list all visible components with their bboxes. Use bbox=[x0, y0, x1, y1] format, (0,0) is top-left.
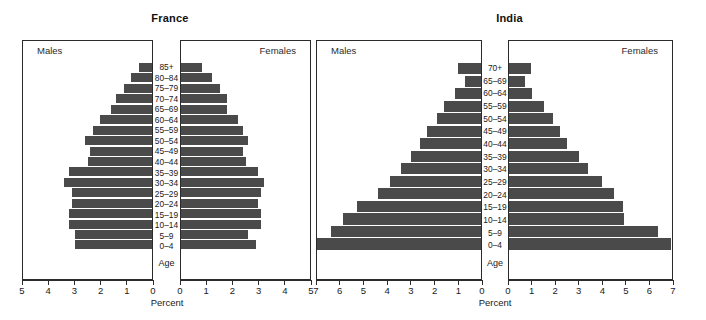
france-age-caption: Age bbox=[153, 258, 180, 268]
axis-tick-label: 2 bbox=[230, 285, 235, 296]
age-group-label: 60–64 bbox=[482, 87, 508, 100]
bar-row bbox=[317, 201, 481, 214]
france-age-labels: 85+80–8475–7970–7465–6960–6455–5950–5445… bbox=[153, 40, 180, 280]
bar-65_69 bbox=[509, 76, 525, 87]
axis-spine bbox=[180, 280, 311, 281]
axis-tick bbox=[232, 280, 233, 285]
axis-tick-label: 4 bbox=[384, 285, 389, 296]
axis-tick bbox=[206, 280, 207, 285]
age-group-label: 45–49 bbox=[153, 146, 180, 157]
axis-tick bbox=[649, 280, 650, 285]
bar-row bbox=[23, 147, 152, 157]
bar-row bbox=[509, 113, 672, 126]
bar-row bbox=[317, 138, 481, 151]
bar-75_79 bbox=[181, 84, 220, 93]
bar-row bbox=[317, 226, 481, 239]
axis-tick-label: 7 bbox=[313, 285, 318, 296]
bar-row bbox=[23, 73, 152, 83]
bar-row bbox=[23, 240, 152, 250]
axis-tick-label: 0 bbox=[177, 285, 182, 296]
age-group-label: 20–24 bbox=[153, 199, 180, 210]
axis-tick bbox=[410, 280, 411, 285]
axis-tick bbox=[126, 280, 127, 285]
bar-45_49 bbox=[427, 126, 481, 137]
france-males-bars bbox=[23, 63, 152, 251]
india-females-panel: Females bbox=[508, 40, 673, 280]
france-females-panel: Females bbox=[180, 40, 311, 280]
bar-row bbox=[509, 201, 672, 214]
bar-row bbox=[509, 76, 672, 89]
india-males-axis: 76543210 bbox=[316, 280, 482, 298]
bar-55_59 bbox=[181, 126, 243, 135]
axis-tick-label: 1 bbox=[204, 285, 209, 296]
age-group-label: 0–4 bbox=[153, 241, 180, 252]
bar-60_64 bbox=[509, 88, 532, 99]
axis-tick bbox=[555, 280, 556, 285]
bar-35_39 bbox=[509, 151, 579, 162]
bar-85+ bbox=[139, 63, 152, 72]
bar-row bbox=[317, 101, 481, 114]
bar-row bbox=[509, 176, 672, 189]
bar-row bbox=[509, 226, 672, 239]
india-age-caption: Age bbox=[482, 258, 508, 268]
bar-row bbox=[23, 136, 152, 146]
axis-tick bbox=[100, 280, 101, 285]
axis-tick-label: 5 bbox=[623, 285, 628, 296]
france-percent-label: Percent bbox=[120, 297, 214, 308]
age-group-label: 50–54 bbox=[153, 136, 180, 147]
bar-35_39 bbox=[181, 167, 258, 176]
bar-0_4 bbox=[317, 238, 481, 249]
axis-tick bbox=[22, 280, 23, 285]
bar-row bbox=[509, 138, 672, 151]
bar-30_34 bbox=[401, 163, 481, 174]
bar-row bbox=[317, 188, 481, 201]
axis-tick-label: 3 bbox=[576, 285, 581, 296]
bar-row bbox=[317, 213, 481, 226]
axis-tick bbox=[434, 280, 435, 285]
age-group-label: 20–24 bbox=[482, 189, 508, 202]
india-males-label: Males bbox=[331, 45, 356, 56]
age-group-label: 35–39 bbox=[153, 167, 180, 178]
axis-tick-label: 5 bbox=[361, 285, 366, 296]
bar-65_69 bbox=[111, 105, 152, 114]
bar-row bbox=[181, 115, 310, 125]
bar-45_49 bbox=[90, 147, 152, 156]
bar-row bbox=[181, 147, 310, 157]
axis-tick-label: 6 bbox=[337, 285, 342, 296]
age-group-label: 65–69 bbox=[482, 75, 508, 88]
bar-75_79 bbox=[124, 84, 152, 93]
axis-tick-label: 2 bbox=[98, 285, 103, 296]
bar-65_69 bbox=[181, 105, 227, 114]
bar-25_29 bbox=[181, 188, 261, 197]
axis-tick bbox=[258, 280, 259, 285]
axis-tick bbox=[180, 280, 181, 285]
bar-35_39 bbox=[411, 151, 481, 162]
bar-35_39 bbox=[69, 167, 152, 176]
bar-50_54 bbox=[437, 113, 482, 124]
bar-row bbox=[181, 230, 310, 240]
bar-5_9 bbox=[181, 230, 248, 239]
bar-55_59 bbox=[444, 101, 481, 112]
axis-tick-label: 4 bbox=[600, 285, 605, 296]
axis-tick-label: 3 bbox=[408, 285, 413, 296]
bar-25_29 bbox=[72, 188, 152, 197]
india-females-axis: 01234567 bbox=[508, 280, 673, 298]
axis-tick bbox=[48, 280, 49, 285]
france-males-panel: Males bbox=[22, 40, 153, 280]
age-group-label: 5–9 bbox=[153, 231, 180, 242]
bar-row bbox=[23, 105, 152, 115]
age-group-label: 65–69 bbox=[153, 104, 180, 115]
bar-60_64 bbox=[100, 115, 152, 124]
bar-10_14 bbox=[509, 213, 624, 224]
bar-row bbox=[23, 94, 152, 104]
bar-row bbox=[317, 76, 481, 89]
bar-row bbox=[509, 188, 672, 201]
bar-20_24 bbox=[509, 188, 614, 199]
bar-row bbox=[181, 136, 310, 146]
bar-20_24 bbox=[72, 199, 152, 208]
india-females-bars bbox=[509, 63, 672, 251]
bar-row bbox=[23, 157, 152, 167]
bar-40_44 bbox=[509, 138, 567, 149]
age-group-label: 40–44 bbox=[153, 157, 180, 168]
axis-tick-label: 4 bbox=[46, 285, 51, 296]
